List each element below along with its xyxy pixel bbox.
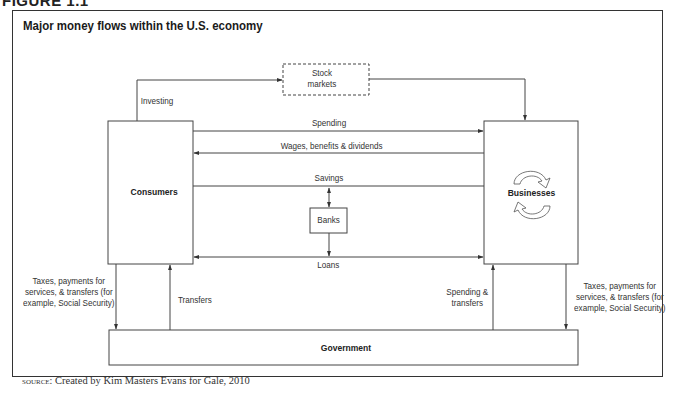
savings-label: Savings (315, 173, 344, 184)
source-text: Created by Kim Masters Evans for Gale, 2… (55, 375, 250, 386)
spending-transfers-line1: Spending & (446, 287, 488, 298)
consumer-taxes-line2: services, & transfers (for (23, 287, 114, 298)
spending-transfers-label: Spending & transfers (446, 287, 488, 309)
consumer-taxes-line3: example, Social Security) (23, 298, 114, 309)
stock-to-businesses-arrow (369, 79, 525, 120)
business-taxes-line1: Taxes, payments for (574, 281, 665, 292)
consumer-taxes-label: Taxes, payments for services, & transfer… (23, 276, 114, 309)
business-taxes-line2: services, & transfers (for (574, 292, 665, 303)
stock-markets-line1: Stock (308, 68, 337, 79)
businesses-label: Businesses (508, 187, 556, 198)
spending-label: Spending (312, 118, 346, 129)
business-taxes-label: Taxes, payments for services, & transfer… (574, 281, 665, 314)
transfers-label: Transfers (178, 295, 212, 306)
source-prefix: source: (22, 375, 52, 386)
loans-label: Loans (317, 260, 339, 271)
spending-transfers-line2: transfers (446, 298, 488, 309)
stock-markets-line2: markets (308, 79, 337, 90)
investing-label: Investing (141, 96, 173, 107)
banks-label: Banks (317, 215, 340, 226)
wages-label: Wages, benefits & dividends (281, 141, 383, 152)
government-label: Government (321, 342, 371, 353)
source-note: source: Created by Kim Masters Evans for… (22, 375, 250, 386)
consumers-label: Consumers (131, 186, 178, 197)
business-taxes-line3: example, Social Security) (574, 303, 665, 314)
stock-markets-label: Stock markets (308, 68, 337, 90)
consumer-taxes-line1: Taxes, payments for (23, 276, 114, 287)
